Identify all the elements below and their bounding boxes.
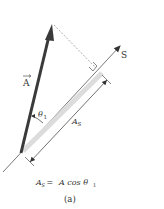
vector-projection-diagram: A S θ 1 A S A S = A cos θ 1 (a) [0,0,164,209]
figure-caption: (a) [64,194,76,204]
dimension-tick-start [25,157,34,166]
projection-band [23,73,102,151]
svg-text:1: 1 [93,182,96,188]
svg-text:θ: θ [38,110,43,119]
vector-a-arrowhead-icon [45,24,54,41]
svg-text:A cos θ: A cos θ [58,178,88,187]
vector-a-label: A [22,75,31,89]
angle-label: θ 1 [38,110,47,120]
svg-text:A: A [22,78,30,88]
s-axis-line [3,46,120,172]
projection-equation: A S = A cos θ 1 [35,178,96,188]
axis-s-label: S [121,50,127,60]
right-angle-marker [89,62,97,71]
projection-dimension-line [30,80,107,162]
projection-label: A S [71,117,82,127]
svg-text:S: S [78,121,82,127]
svg-text:1: 1 [44,114,48,120]
vector-a-shaft [21,36,49,153]
dimension-tick-end [102,75,111,84]
perpendicular-dashed-line [54,25,96,68]
svg-text:=: = [44,178,56,187]
